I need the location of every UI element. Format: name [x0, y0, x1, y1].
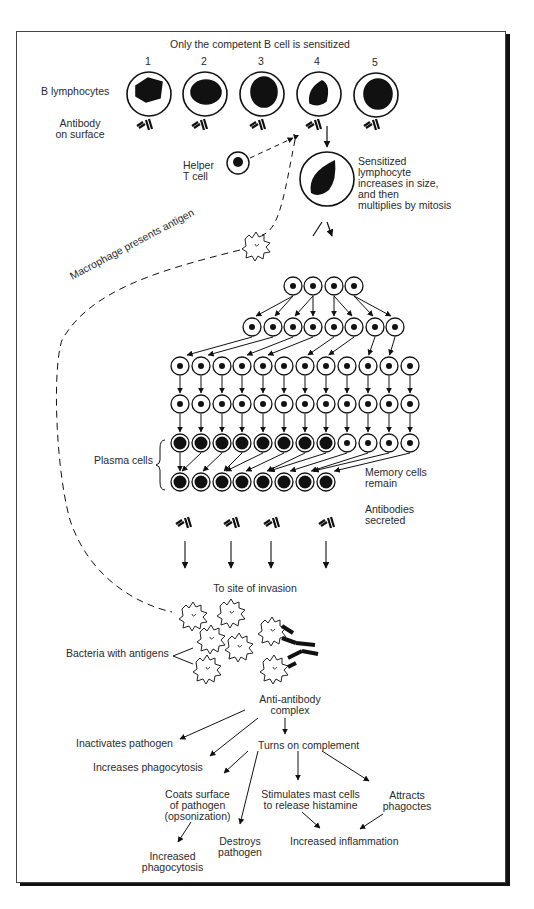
- macrophage-path: [56, 250, 240, 612]
- label-site-of-invasion: To site of invasion: [200, 583, 310, 594]
- surface-antibodies: [137, 119, 379, 130]
- cell-number-4: 4: [314, 56, 320, 67]
- mitosis-arrows: [313, 222, 332, 236]
- label-anti-antibody: Anti-antibody complex: [255, 694, 325, 716]
- cell-number-5: 5: [372, 57, 378, 68]
- label-complement: Turns on complement: [258, 740, 359, 751]
- label-inflammation: Increased inflammation: [290, 836, 399, 847]
- sensitized-lymphocyte: [300, 152, 354, 206]
- label-increases-phagocytosis: Increases phagocytosis: [93, 762, 203, 773]
- macrophage-path-upper: [262, 140, 295, 235]
- label-attracts: Attracts phagoctes: [377, 790, 437, 812]
- label-bacteria: Bacteria with antigens: [66, 648, 169, 659]
- secreted-antibodies: [176, 517, 334, 528]
- label-mast-cells: Stimulates mast cells to release histami…: [258, 789, 363, 811]
- bacteria-pointer: [173, 648, 193, 664]
- proliferating-cells: [171, 277, 419, 491]
- cell-number-1: 1: [145, 56, 151, 67]
- bacteria-cluster: [179, 599, 288, 684]
- label-sensitized: Sensitized lymphocyte increases in size,…: [358, 156, 451, 211]
- plasma-brace: [156, 440, 165, 490]
- label-helper-t-cell: Helper T cell: [183, 160, 214, 182]
- label-antibody-on-surface: Antibody on surface: [50, 118, 110, 140]
- label-coats-surface: Coats surface of pathogen (opsonization): [160, 789, 235, 822]
- macrophage: [242, 232, 270, 261]
- b-lymphocyte-row: [127, 72, 398, 117]
- anti-antibody-complex-shape: [282, 626, 318, 667]
- label-antibodies-secreted: Antibodies secreted: [365, 504, 414, 526]
- antibody-arrows: [185, 541, 326, 568]
- label-destroys: Destroys pathogen: [215, 836, 265, 858]
- label-inactivates: Inactivates pathogen: [76, 738, 173, 749]
- label-b-lymphocytes: B lymphocytes: [41, 86, 109, 97]
- cell-number-2: 2: [201, 56, 207, 67]
- helper-arrow: [250, 138, 293, 158]
- diagram-title: Only the competent B cell is sensitized: [160, 39, 360, 50]
- cell-number-3: 3: [258, 56, 264, 67]
- effect-arrows: [178, 710, 383, 842]
- helper-t-cell: [227, 152, 249, 174]
- label-increased-phagocytosis: Increased phagocytosis: [140, 851, 205, 873]
- label-plasma-cells: Plasma cells: [94, 455, 153, 466]
- label-memory-cells: Memory cells remain: [365, 467, 427, 489]
